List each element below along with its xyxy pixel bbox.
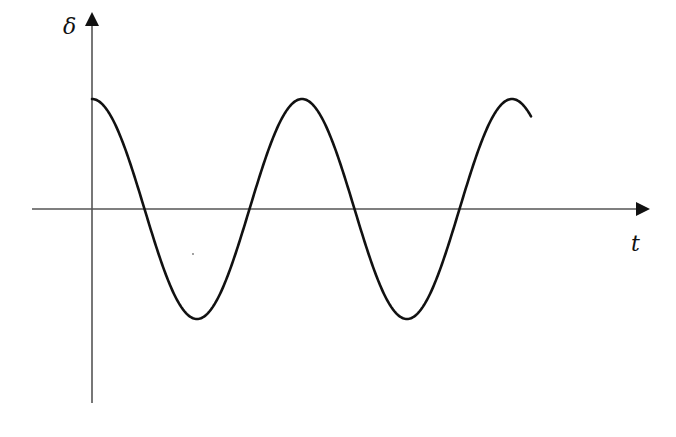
oscillation-diagram: δ t (0, 0, 676, 437)
y-axis-label: δ (63, 14, 76, 39)
x-axis-label: t (631, 231, 640, 256)
stray-dot (192, 253, 194, 255)
y-axis-arrow-icon (85, 12, 99, 26)
x-axis-arrow-icon (636, 202, 650, 216)
